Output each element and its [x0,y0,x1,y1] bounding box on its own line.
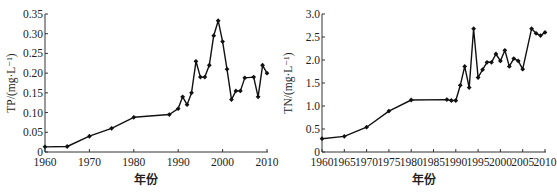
data-point-marker [194,59,199,64]
data-point-marker [216,18,221,23]
data-point-marker [453,98,458,103]
x-tick-label: 1960 [34,156,57,168]
x-tick-label: 1980 [400,156,423,168]
x-tick-label: 2010 [534,156,557,168]
x-tick-label: 1995 [467,156,490,168]
data-point-marker [43,144,48,149]
y-tick-label: 0.05 [23,126,43,138]
data-point-marker [251,75,256,80]
data-point-marker [238,88,243,93]
y-tick-label: 0.10 [23,107,43,119]
data-point-marker [109,126,114,131]
y-tick-label: 2.5 [306,31,321,43]
data-point-marker [225,67,230,72]
data-point-marker [202,75,207,80]
x-axis-title: 年份 [412,172,437,187]
data-point-marker [131,115,136,120]
y-axis-title: TP/(mg·L⁻¹) [5,53,18,113]
data-point-marker [229,97,234,102]
x-tick-label: 2005 [511,156,534,168]
y-tick-label: 0.30 [23,28,43,40]
data-line [322,29,545,139]
x-tick-label: 1980 [122,156,145,168]
data-point-marker [502,48,507,53]
tn-chart: 00.51.01.52.02.53.0196019651970197519801… [282,8,557,187]
chart-canvas: 00.050.100.150.200.250.300.3519601970198… [0,0,557,192]
data-point-marker [462,64,467,69]
data-point-marker [242,75,247,80]
y-tick-label: 1.5 [306,77,321,89]
x-tick-label: 1990 [444,156,467,168]
tp-chart: 00.050.100.150.200.250.300.3519601970198… [5,8,279,187]
x-tick-label: 2000 [211,156,234,168]
x-tick-label: 2000 [489,156,512,168]
x-tick-label: 1970 [78,156,101,168]
y-tick-label: 0.15 [23,87,43,99]
data-point-marker [256,94,261,99]
x-tick-label: 1965 [333,156,356,168]
data-point-marker [189,90,194,95]
y-tick-label: 0.5 [306,123,321,135]
data-point-marker [471,26,476,31]
data-point-marker [444,97,449,102]
data-point-marker [320,136,325,141]
x-tick-label: 1970 [355,156,378,168]
x-tick-label: 1990 [167,156,190,168]
data-point-marker [198,75,203,80]
x-tick-label: 1985 [422,156,445,168]
data-point-marker [516,59,521,64]
x-tick-label: 1960 [311,156,334,168]
y-tick-label: 2.0 [306,54,321,66]
data-point-marker [458,83,463,88]
data-point-marker [449,98,454,103]
data-point-marker [467,85,472,90]
data-point-marker [220,39,225,44]
y-axis-title: TN/(mg·L⁻¹) [282,52,295,113]
y-tick-label: 0.20 [23,67,43,79]
y-tick-label: 1.0 [306,100,321,112]
data-point-marker [234,88,239,93]
data-point-marker [207,63,212,68]
y-tick-label: 0.35 [23,8,43,20]
data-point-marker [211,33,216,38]
data-point-marker [342,134,347,139]
x-tick-label: 2010 [256,156,279,168]
y-tick-label: 3.0 [306,8,321,20]
y-tick-label: 0.25 [23,47,43,59]
data-line [45,21,267,147]
x-tick-label: 1975 [377,156,400,168]
x-axis-title: 年份 [134,172,159,187]
data-point-marker [65,144,70,149]
data-point-marker [409,98,414,103]
data-point-marker [87,134,92,139]
